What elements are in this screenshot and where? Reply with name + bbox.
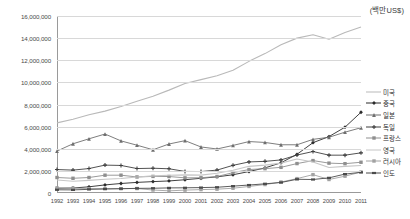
gridline <box>57 149 361 150</box>
data-point <box>183 188 186 191</box>
legend-item-중국[interactable]: 중국 <box>366 98 410 110</box>
x-tick-label: 2003 <box>227 198 239 204</box>
data-point <box>231 163 235 167</box>
x-tick-label: 2007 <box>291 198 303 204</box>
data-point <box>327 177 331 179</box>
data-point <box>372 172 376 174</box>
x-tick-label: 1992 <box>51 198 63 204</box>
data-point <box>372 101 376 105</box>
x-tick-label: 2000 <box>179 198 191 204</box>
series-line <box>57 27 361 123</box>
data-point <box>55 189 59 191</box>
data-point <box>167 189 170 192</box>
x-tick-label: 2011 <box>355 198 367 204</box>
data-point <box>372 125 376 129</box>
data-point <box>263 159 267 163</box>
series-프랑스 <box>55 159 362 180</box>
legend-item-일본[interactable]: 일본 <box>366 109 410 121</box>
x-tick-label: 2005 <box>259 198 271 204</box>
legend-label: 중국 <box>383 98 395 108</box>
legend-item-미국[interactable]: 미국 <box>366 86 410 98</box>
x-tick-label: 2010 <box>339 198 351 204</box>
data-point <box>119 188 123 190</box>
data-point <box>135 187 139 189</box>
x-tick-label: 2001 <box>195 198 207 204</box>
y-tick-label: 6,000,000 <box>24 123 51 130</box>
legend-item-영국[interactable]: 영국 <box>366 144 410 156</box>
legend-item-인도[interactable]: 인도 <box>366 167 410 179</box>
x-tick-label: 1997 <box>131 198 143 204</box>
y-axis-labels: 02,000,0004,000,0006,000,0008,000,00010,… <box>0 16 55 193</box>
series-line <box>57 172 361 191</box>
data-point <box>343 173 347 175</box>
series-line <box>57 128 361 151</box>
legend-swatch-icon <box>366 157 381 166</box>
y-tick-label: 10,000,000 <box>21 79 51 86</box>
legend-item-독일[interactable]: 독일 <box>366 121 410 133</box>
data-point <box>343 162 346 165</box>
data-point <box>119 182 123 186</box>
data-point <box>372 160 375 163</box>
data-point <box>151 166 155 170</box>
legend-swatch-icon <box>366 87 381 96</box>
data-point <box>359 161 362 164</box>
gridline <box>57 171 361 172</box>
legend-marker-icon <box>369 122 378 131</box>
legend-item-러시아[interactable]: 러시아 <box>366 156 410 168</box>
x-tick-label: 2006 <box>275 198 287 204</box>
data-point <box>279 166 282 169</box>
data-point <box>247 184 251 186</box>
data-point <box>87 188 91 190</box>
gridline <box>57 60 361 61</box>
data-point <box>183 176 186 179</box>
legend-swatch-icon <box>366 122 381 131</box>
data-point <box>372 113 376 117</box>
data-point <box>103 163 107 167</box>
data-point <box>167 187 171 189</box>
data-point <box>311 173 314 176</box>
x-tick-label: 1998 <box>147 198 159 204</box>
data-point <box>327 161 330 164</box>
legend-swatch-icon <box>366 145 381 154</box>
legend-marker-icon <box>369 157 378 166</box>
legend-label: 러시아 <box>383 156 400 166</box>
data-point <box>231 185 235 187</box>
legend-swatch-icon <box>366 168 381 177</box>
data-point <box>215 186 219 188</box>
data-point <box>151 180 155 184</box>
legend-item-프랑스[interactable]: 프랑스 <box>366 132 410 144</box>
x-tick-label: 1995 <box>99 198 111 204</box>
data-point <box>87 176 90 179</box>
gridline <box>57 38 361 39</box>
data-point <box>103 188 107 190</box>
y-tick-label: 2,000,000 <box>24 167 51 174</box>
legend-marker-icon <box>369 134 378 143</box>
data-point <box>119 163 123 167</box>
legend-marker-icon <box>369 168 378 177</box>
legend-label: 프랑스 <box>383 133 400 143</box>
data-point <box>311 178 315 180</box>
data-point <box>247 160 251 164</box>
data-point <box>263 183 267 185</box>
legend-swatch-icon <box>366 99 381 108</box>
gdp-line-chart: (백만US$) 02,000,0004,000,0006,000,0008,00… <box>0 0 410 219</box>
y-tick-label: 12,000,000 <box>21 57 51 64</box>
data-point <box>311 150 315 154</box>
data-point <box>183 187 187 189</box>
y-tick-label: 16,000,000 <box>21 13 51 20</box>
y-tick-label: 4,000,000 <box>24 145 51 152</box>
legend-swatch-icon <box>366 110 381 119</box>
data-point <box>199 186 203 188</box>
data-point <box>215 175 218 178</box>
data-point <box>295 162 298 165</box>
data-point <box>279 181 283 183</box>
y-tick-label: 14,000,000 <box>21 35 51 42</box>
y-tick-label: 0 <box>48 190 51 197</box>
x-tick-label: 2009 <box>323 198 335 204</box>
data-point <box>295 178 299 180</box>
legend-label: 미국 <box>383 87 395 97</box>
x-tick-label: 2004 <box>243 198 255 204</box>
data-point <box>103 183 107 187</box>
gridline <box>57 127 361 128</box>
x-tick-label: 1996 <box>115 198 127 204</box>
